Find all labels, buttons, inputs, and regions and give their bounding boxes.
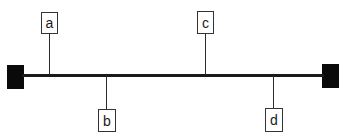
tap-d-label-box: d <box>265 108 283 132</box>
tap-d-label: d <box>270 113 278 127</box>
right-terminal-block <box>322 64 339 88</box>
tap-b-connector <box>106 75 107 109</box>
tap-b-label: b <box>103 114 111 128</box>
main-bus-line <box>22 74 324 77</box>
tap-d-connector <box>273 75 274 109</box>
tap-b-label-box: b <box>98 109 116 132</box>
tap-a-label: a <box>46 16 54 30</box>
tap-a-label-box: a <box>41 12 58 34</box>
tap-c-connector <box>205 33 206 75</box>
tap-a-connector <box>49 33 50 75</box>
tap-c-label-box: c <box>197 11 214 34</box>
tap-c-label: c <box>202 16 209 30</box>
left-terminal-block <box>7 65 24 89</box>
